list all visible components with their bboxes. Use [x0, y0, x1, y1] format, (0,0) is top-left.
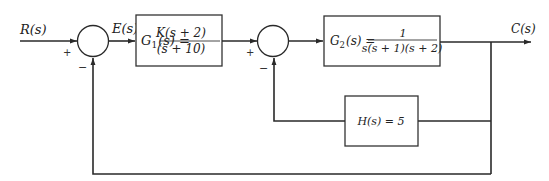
inner-feedback-loop: H(s) = 5: [274, 58, 491, 146]
plus-sign: +: [246, 47, 254, 58]
error-label: E(s): [111, 21, 138, 36]
g2-block: G2(s) = 1 s(s + 1)(s + 2): [324, 16, 442, 66]
g1-numerator: K(s + 2): [155, 26, 206, 40]
summing-junction-circle: [258, 26, 289, 57]
input-signal: R(s): [19, 22, 77, 41]
output-signal: C(s): [440, 22, 536, 42]
block-diagram: R(s) + − E(s) G1(s) = K(s + 2) (s + 10) …: [0, 0, 549, 181]
g2-denominator: s(s + 1)(s + 2): [362, 42, 443, 55]
minus-sign: −: [78, 61, 87, 74]
minus-sign: −: [259, 62, 268, 75]
output-label: C(s): [511, 22, 536, 36]
summing-junction-circle: [78, 26, 109, 57]
g1-denominator: (s + 10): [157, 42, 206, 56]
outer-feedback-arrow: [93, 58, 491, 174]
h-label: H(s) = 5: [356, 115, 404, 128]
input-label: R(s): [19, 22, 47, 37]
g2-numerator: 1: [400, 27, 407, 40]
g1-block: G1(s) = K(s + 2) (s + 10): [136, 15, 222, 66]
plus-sign: +: [63, 47, 71, 58]
h-output-arrow: [274, 58, 345, 121]
summing-junction-1: + −: [63, 26, 109, 75]
summing-junction-2: + −: [246, 26, 289, 76]
